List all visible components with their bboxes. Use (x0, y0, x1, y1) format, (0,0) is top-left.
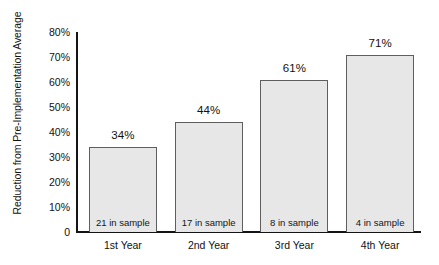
y-axis-tick-label: 0 (26, 226, 70, 238)
y-axis-tick-label: 40% (26, 126, 70, 138)
bar-sample-label: 4 in sample (347, 217, 413, 229)
bar-sample-label: 17 in sample (176, 217, 242, 229)
bar-value-label: 61% (260, 61, 328, 75)
y-axis-tick-label: 70% (26, 51, 70, 63)
y-axis-tick-labels: 80%70%60%50%40%30%20%10%0 (26, 0, 70, 265)
y-axis-tick-label: 80% (26, 26, 70, 38)
bar[interactable]: 8 in sample (260, 80, 328, 233)
y-axis-tick-label: 20% (26, 176, 70, 188)
y-axis-tick-label: 60% (26, 76, 70, 88)
bar-group[interactable]: 17 in sample44% (175, 32, 243, 232)
y-axis-tick-label: 30% (26, 151, 70, 163)
bar-sample-label: 21 in sample (90, 217, 156, 229)
x-axis-category-label: 3rd Year (250, 238, 338, 252)
bar-sample-label: 8 in sample (261, 217, 327, 229)
x-axis-category-label: 4th Year (336, 238, 424, 252)
plot-area: 21 in sample34%17 in sample44%8 in sampl… (78, 32, 421, 232)
bar-group[interactable]: 8 in sample61% (260, 32, 328, 232)
bar-value-label: 34% (89, 128, 157, 142)
bar-group[interactable]: 21 in sample34% (89, 32, 157, 232)
y-axis-tick-label: 50% (26, 101, 70, 113)
y-axis-title: Reduction from Pre-Implementation Averag… (11, 8, 27, 218)
x-axis-category-label: 1st Year (79, 238, 167, 252)
bar-value-label: 44% (175, 103, 243, 117)
bar[interactable]: 17 in sample (175, 122, 243, 232)
bar-value-label: 71% (346, 36, 414, 50)
bar[interactable]: 21 in sample (89, 147, 157, 232)
bar[interactable]: 4 in sample (346, 55, 414, 233)
bar-group[interactable]: 4 in sample71% (346, 32, 414, 232)
bar-chart: Reduction from Pre-Implementation Averag… (0, 0, 439, 265)
y-axis-tick-label: 10% (26, 201, 70, 213)
x-axis-category-label: 2nd Year (165, 238, 253, 252)
